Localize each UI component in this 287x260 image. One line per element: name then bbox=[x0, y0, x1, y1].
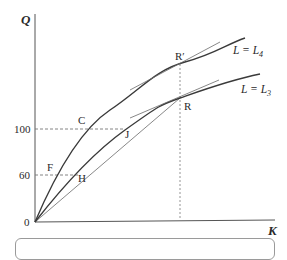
point-J: J bbox=[125, 128, 130, 140]
tick-100: 100 bbox=[14, 123, 31, 135]
curve-label-L3: L = L3 bbox=[240, 83, 271, 98]
ray-origin-R bbox=[35, 98, 180, 222]
curve-L3 bbox=[35, 74, 260, 222]
caption-box bbox=[15, 238, 275, 260]
x-axis bbox=[35, 220, 275, 222]
curve-label-L4: L = L4 bbox=[232, 44, 263, 59]
point-C: C bbox=[78, 114, 85, 126]
point-F: F bbox=[47, 161, 53, 173]
x-axis-label: K bbox=[267, 223, 278, 238]
origin-label: 0 bbox=[24, 216, 30, 228]
tangent-R bbox=[130, 80, 219, 118]
y-axis-label: Q bbox=[21, 12, 31, 27]
point-H: H bbox=[78, 172, 86, 184]
tick-60: 60 bbox=[19, 169, 31, 181]
curve-L4 bbox=[35, 38, 245, 222]
point-R: R bbox=[184, 100, 192, 112]
point-R-prime: R′ bbox=[175, 50, 185, 62]
